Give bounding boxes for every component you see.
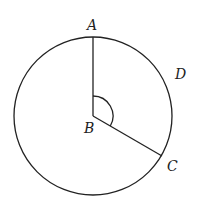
label-a: A bbox=[85, 17, 97, 33]
radius-bc bbox=[93, 116, 162, 156]
label-b: B bbox=[83, 120, 94, 136]
circle-diagram: A B C D bbox=[0, 0, 201, 207]
label-c: C bbox=[167, 158, 178, 174]
label-d: D bbox=[174, 66, 186, 82]
